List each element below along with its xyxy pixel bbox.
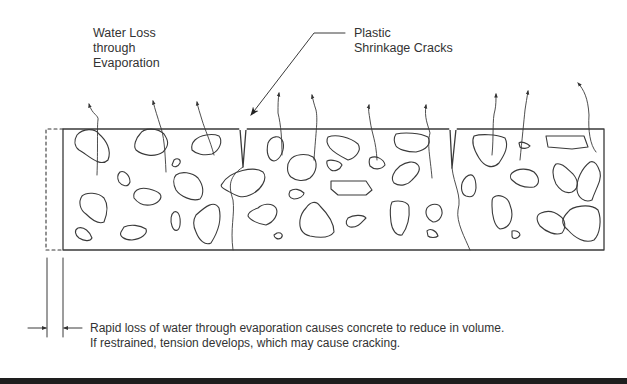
cracks-leader-arrow <box>251 33 345 115</box>
caption-line-2: If restrained, tension develops, which m… <box>90 336 504 351</box>
shrinkage-dimension <box>28 258 82 337</box>
diagram-caption: Rapid loss of water through evaporation … <box>90 321 504 351</box>
caption-line-1: Rapid loss of water through evaporation … <box>90 321 504 336</box>
evaporation-arrows <box>89 83 596 178</box>
bottom-rule-bar <box>0 378 627 384</box>
original-volume-outline <box>46 129 63 250</box>
